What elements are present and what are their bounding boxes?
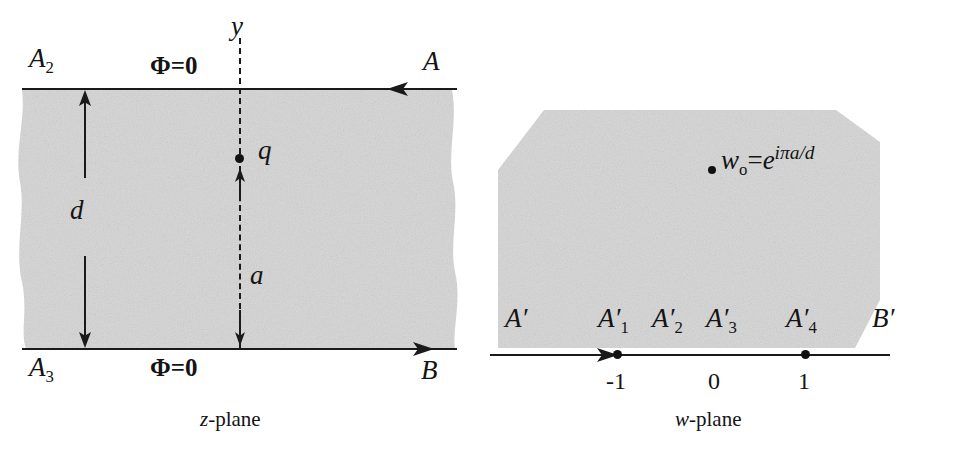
w-point-plus-one (801, 350, 810, 359)
w-plane-caption: w-plane (675, 409, 742, 430)
z-label-A-right: A (423, 48, 440, 75)
w-tick-label-plus-one: 1 (798, 369, 810, 393)
z-label-y-axis: y (231, 13, 243, 40)
w-label-w: w (721, 145, 739, 175)
w-plane-panel: wo=eiπa/d A′ A′1 A′2 A′3 A′4 B′ -1 0 1 w… (480, 0, 961, 459)
z-plane-caption-italic: z (200, 407, 208, 431)
z-plane-caption: z-plane (200, 409, 261, 430)
w-label-A3-prime-base: A (706, 303, 723, 333)
z-label-phi-top: Φ=0 (150, 53, 197, 78)
w-label-B-prime: B′ (872, 305, 894, 332)
w-label-A2-prime-sub: 2 (674, 318, 682, 337)
w-plane-caption-rest: -plane (689, 407, 741, 431)
w-image-charge-point (708, 166, 716, 174)
w-label-A-prime-base: A (505, 303, 522, 333)
z-distance-a-arrows (228, 160, 252, 352)
w-label-A4-prime-sub: 4 (808, 318, 816, 337)
z-label-A2-base: A (29, 43, 46, 73)
z-plane-caption-rest: -plane (208, 407, 260, 431)
z-label-A3-base: A (29, 352, 46, 382)
w-plane-shaded-region (480, 0, 961, 459)
w-label-B-prime-base: B (872, 303, 889, 333)
z-label-d: d (70, 197, 84, 224)
w-label-equals: = (747, 145, 762, 175)
z-top-arrow-left-icon (386, 79, 436, 99)
w-tick-label-zero: 0 (708, 369, 720, 393)
w-label-A-prime-mark: ′ (522, 303, 528, 333)
w-label-A2-prime-base: A (652, 303, 669, 333)
w-point-minus-one (613, 350, 622, 359)
w-label-e: e (763, 145, 775, 175)
w-label-A4-prime-base: A (786, 303, 803, 333)
z-label-phi-bottom: Φ=0 (150, 355, 197, 380)
z-label-A3: A3 (29, 354, 54, 386)
w-label-A-prime: A′ (505, 305, 527, 332)
w-label-A1-prime-base: A (598, 303, 615, 333)
z-label-A2: A2 (29, 45, 54, 77)
w-label-A1-prime-sub: 1 (620, 318, 628, 337)
w-label-B-prime-mark: ′ (889, 303, 895, 333)
w-label-A4-prime: A′4 (786, 305, 817, 337)
z-label-a: a (250, 262, 264, 289)
w-label-A3-prime-sub: 3 (728, 318, 736, 337)
w-real-axis-line (490, 354, 890, 356)
w-label-A3-prime: A′3 (706, 305, 737, 337)
z-y-axis-dashed-upper (239, 38, 241, 154)
w-image-charge-label: wo=eiπa/d (721, 143, 815, 179)
z-label-B-right: B (421, 357, 438, 384)
z-label-A3-sub: 3 (46, 367, 54, 386)
z-label-q: q (258, 137, 272, 164)
w-label-exponent: iπa/d (775, 142, 815, 163)
z-charge-point (235, 154, 244, 163)
w-label-A1-prime: A′1 (598, 305, 629, 337)
w-label-A2-prime: A′2 (652, 305, 683, 337)
z-plane-panel: A2 Φ=0 y A q d a A3 Φ=0 B z-plane (0, 0, 480, 459)
conformal-mapping-figure: A2 Φ=0 y A q d a A3 Φ=0 B z-plane (0, 0, 961, 459)
w-tick-label-minus-one: -1 (606, 369, 626, 393)
z-label-A2-sub: 2 (46, 58, 54, 77)
w-plane-caption-italic: w (675, 407, 689, 431)
